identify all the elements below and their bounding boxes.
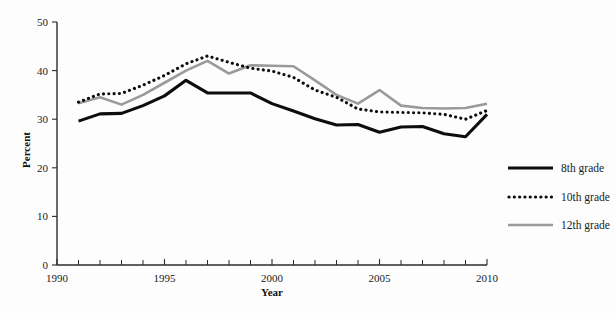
legend-label-10th-grade: 10th grade	[561, 191, 610, 204]
x-tick-label: 2000	[261, 272, 284, 284]
chart-figure: 01020304050 19901995200020052010 Percent…	[0, 0, 615, 313]
line-chart: 01020304050 19901995200020052010 Percent…	[0, 0, 615, 313]
y-axis-title: Percent	[20, 132, 32, 168]
x-tick-label: 2010	[476, 272, 499, 284]
x-tick-label: 1990	[46, 272, 69, 284]
y-tick-label: 10	[37, 210, 49, 222]
y-tick-label: 20	[37, 162, 49, 174]
legend-label-12th-grade: 12th grade	[561, 219, 610, 232]
x-axis-title: Year	[261, 286, 283, 298]
chart-background	[0, 0, 615, 313]
y-tick-label: 30	[37, 113, 49, 125]
y-tick-label: 50	[37, 16, 49, 28]
x-tick-label: 2005	[369, 272, 392, 284]
y-tick-label: 40	[37, 65, 49, 77]
x-tick-label: 1995	[154, 272, 177, 284]
y-tick-label: 0	[43, 259, 49, 271]
legend-label-8th-grade: 8th grade	[561, 162, 604, 175]
